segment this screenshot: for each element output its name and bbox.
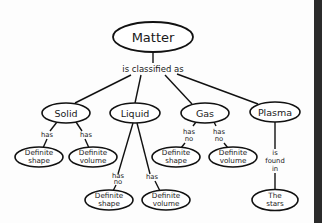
link-liquid-has-volume: has	[146, 173, 158, 181]
node-solid-definite-shape: Definite shape	[15, 147, 63, 167]
edge-to-liquid	[135, 75, 141, 103]
node-solid-label: Solid	[54, 108, 77, 119]
link-solid-has-volume: has	[80, 131, 92, 139]
edge-to-gas	[165, 75, 192, 104]
edge-solid-has1	[50, 122, 57, 131]
node-gas-definite-volume: Definite volume	[209, 147, 257, 167]
node-gas: Gas	[181, 103, 229, 123]
node-matter: Matter	[113, 22, 193, 52]
link-plasma-is: is	[272, 149, 278, 157]
edge-liquid-hasno	[118, 123, 133, 174]
node-label-line2: volume	[80, 156, 107, 165]
concept-map: Matter is classified as Solid Liquid Gas…	[0, 0, 322, 223]
concept-map-canvas: Matter is classified as Solid Liquid Gas…	[0, 0, 322, 223]
node-solid: Solid	[42, 103, 90, 123]
link-gas-no-volume: no	[215, 135, 223, 143]
link-solid-has-shape: has	[41, 131, 53, 139]
link-gas-no-shape: no	[185, 135, 193, 143]
node-liquid: Liquid	[110, 103, 160, 123]
edge-liquid-has	[137, 123, 150, 174]
edge-solid-has2	[76, 122, 82, 131]
node-label-line2: shape	[165, 156, 187, 165]
node-plasma: Plasma	[250, 102, 300, 122]
node-liquid-definite-shape: Definite shape	[85, 190, 133, 210]
node-gas-definite-shape: Definite shape	[152, 147, 200, 167]
node-plasma-label: Plasma	[258, 107, 292, 118]
edge-to-plasma	[177, 74, 258, 104]
edge-liquid-volume	[155, 181, 160, 191]
node-liquid-label: Liquid	[121, 108, 150, 119]
node-solid-definite-volume: Definite volume	[69, 147, 117, 167]
link-plasma-in: in	[272, 165, 278, 173]
node-label-line2: volume	[220, 156, 247, 165]
node-plasma-the-stars: The stars	[252, 190, 298, 211]
node-label-line2: stars	[266, 199, 284, 208]
node-label-line2: volume	[153, 199, 180, 208]
link-is-classified-as: is classified as	[122, 64, 184, 74]
link-liquid-no: no	[114, 178, 122, 186]
node-gas-label: Gas	[196, 108, 214, 119]
link-plasma-found: found	[265, 157, 284, 165]
node-matter-label: Matter	[132, 30, 175, 45]
edge-to-solid	[75, 75, 131, 103]
node-label-line2: shape	[28, 156, 50, 165]
right-edge-bar	[314, 0, 322, 223]
node-liquid-definite-volume: Definite volume	[142, 190, 190, 210]
node-label-line2: shape	[98, 199, 120, 208]
